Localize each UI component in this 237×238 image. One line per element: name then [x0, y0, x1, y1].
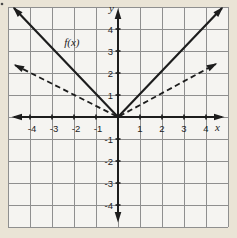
x-axis-label: x — [214, 121, 220, 133]
y-tick-label: -2 — [105, 156, 113, 167]
x-tick-label: -4 — [28, 123, 36, 134]
y-tick-label: -1 — [105, 134, 113, 145]
y-tick-label: 4 — [108, 24, 113, 35]
x-tick-label: 2 — [159, 123, 164, 134]
y-axis-label: y — [108, 2, 114, 14]
y-tick-label: -3 — [105, 178, 113, 189]
x-tick-label: -1 — [94, 123, 102, 134]
x-tick-label: 4 — [203, 123, 208, 134]
y-tick-label: 1 — [108, 90, 113, 101]
function-label: f(x) — [64, 36, 80, 49]
list-marker-dot — [1, 3, 4, 6]
x-tick-label: -2 — [72, 123, 80, 134]
graph-panel: -4-3-2-112344321-1-2-3-4yxf(x) — [0, 0, 237, 238]
x-tick-label: 1 — [137, 123, 142, 134]
y-tick-label: -4 — [105, 200, 113, 211]
y-tick-label: 2 — [108, 68, 113, 79]
y-tick-label: 3 — [108, 46, 113, 57]
x-tick-label: -3 — [50, 123, 58, 134]
function-graph: -4-3-2-112344321-1-2-3-4yxf(x) — [0, 0, 237, 238]
x-tick-label: 3 — [181, 123, 186, 134]
